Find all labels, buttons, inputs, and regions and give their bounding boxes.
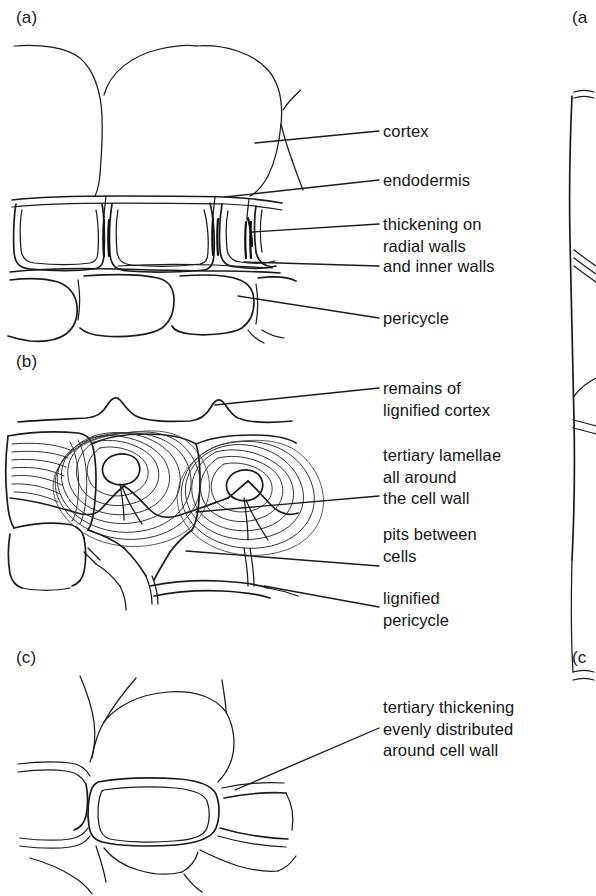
figure-root: (a): [0, 0, 596, 896]
callout-tertiary-even: tertiary thickening evenly distributed a…: [383, 697, 514, 762]
leader-tertiary-even: [235, 728, 379, 790]
adjacent-figure-label-a: (a: [572, 8, 587, 28]
adjacent-figure-label-c: (c: [572, 648, 586, 668]
adjacent-figure-strip: [560, 0, 596, 896]
panel-c-drawing: [0, 0, 596, 896]
